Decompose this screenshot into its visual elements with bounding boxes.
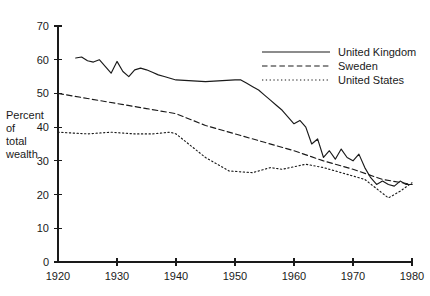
y-axis-title: Percentoftotalwealth [5,109,44,160]
y-tick-label: 40 [37,121,49,133]
wealth-share-chart: 010203040506070 192019301940195019601970… [0,0,430,296]
x-axis-tick-labels: 1920193019401950196019701980 [46,270,424,282]
y-tick-label: 0 [43,256,49,268]
x-tick-label: 1950 [223,270,247,282]
y-tick-label: 10 [37,222,49,234]
legend-label-sweden: Sweden [338,60,378,72]
y-axis-title-line: of [6,122,16,134]
y-axis-tick-labels: 010203040506070 [37,20,49,268]
x-tick-label: 1980 [400,270,424,282]
legend-label-united-kingdom: United Kingdom [338,46,416,58]
y-axis-title-line: wealth [5,148,38,160]
x-tick-label: 1970 [341,270,365,282]
y-tick-label: 50 [37,87,49,99]
legend-label-united-states: United States [338,74,405,86]
y-tick-label: 20 [37,189,49,201]
y-axis-title-line: total [6,135,27,147]
y-tick-label: 30 [37,155,49,167]
series-line-sweden [58,93,412,184]
x-tick-label: 1960 [282,270,306,282]
y-tick-label: 60 [37,54,49,66]
x-tick-label: 1920 [46,270,70,282]
y-axis-title-line: Percent [6,109,44,121]
x-tick-label: 1930 [105,270,129,282]
chart-canvas: 010203040506070 192019301940195019601970… [0,0,430,296]
y-tick-label: 70 [37,20,49,32]
series-line-united-states [58,132,412,198]
chart-legend: United KingdomSwedenUnited States [262,46,416,86]
x-tick-label: 1940 [164,270,188,282]
